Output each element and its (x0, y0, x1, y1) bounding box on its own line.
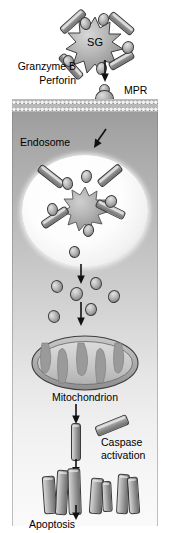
to-mitochondrion-arrow (75, 302, 87, 326)
cell-edge-right (157, 112, 158, 526)
caspase-fragment (101, 481, 113, 512)
cell-edge-left (12, 112, 13, 526)
perforin-label: Perforin (2, 74, 76, 87)
membrane-outer-leaflet (12, 99, 158, 106)
granule-release-arrow (99, 60, 111, 82)
caspase-activation-label: Caspase activation (101, 436, 145, 461)
mpr-label: MPR (124, 84, 147, 97)
endocytosis-arrow (92, 128, 110, 150)
mitochondrion-label: Mitochondrion (15, 391, 155, 404)
mitochondrion (31, 335, 139, 391)
endosome-release-arrow (75, 264, 87, 284)
pathway-figure: SG Granzyme B Perforin MPR Endos (0, 0, 170, 533)
endosome-label: Endosome (20, 136, 70, 149)
procaspase-rod (71, 423, 81, 461)
sg-label: SG (66, 36, 124, 49)
granzyme-b-label: Granzyme B (2, 60, 76, 73)
mito-to-caspase-arrow (70, 404, 82, 424)
apoptosis-label: Apoptosis (29, 518, 75, 531)
